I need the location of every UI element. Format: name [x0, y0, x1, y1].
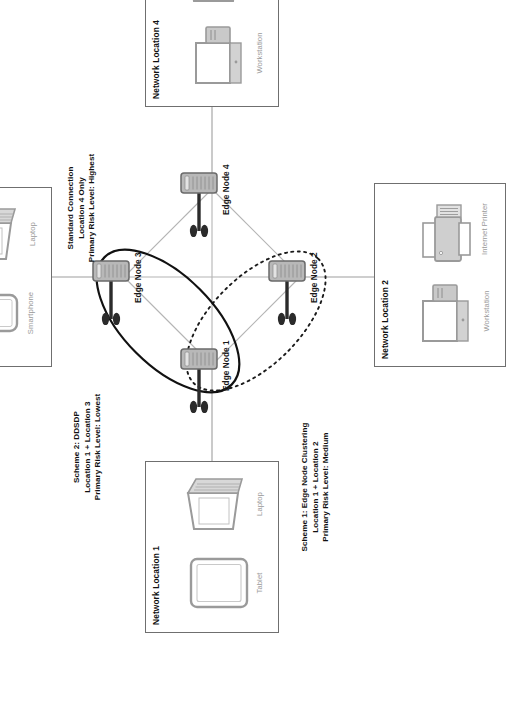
- annotation-scheme-1: Scheme 1: Edge Node Clustering Location …: [300, 377, 332, 597]
- device-label: Laptop: [28, 198, 37, 270]
- smartphone-icon: [0, 287, 21, 339]
- antenna-icon: [190, 193, 208, 237]
- device-laptop: Laptop: [186, 468, 264, 540]
- edge-node-2: Edge Node 2: [266, 251, 308, 325]
- edge-node-label: Edge Node 4: [222, 164, 231, 215]
- workstation-icon: [417, 275, 477, 347]
- device-workstation: Workstation: [190, 14, 264, 92]
- workstation-icon: [190, 17, 250, 89]
- device-label: Laptop: [255, 0, 264, 12]
- location-title: Network Location 1: [151, 546, 161, 625]
- device-workstation: Workstation: [417, 272, 491, 350]
- annotation-scheme-2: Scheme 2: DDSDP Location 1 + Location 3 …: [72, 347, 104, 547]
- edge-node-4: Edge Node 4: [178, 163, 220, 237]
- device-smartphone: Smartphone: [0, 278, 35, 348]
- device-label: Internet Printer: [480, 188, 489, 270]
- laptop-icon: [186, 471, 250, 537]
- annotation-line-3: Primary Risk Level: Highest: [87, 103, 98, 313]
- tablet-icon: [188, 555, 250, 611]
- annotation-line-1: Standard Connection: [66, 103, 77, 313]
- annotation-line-2: Location 1 + Location 3: [83, 347, 94, 547]
- edge-node-label: Edge Node 3: [134, 252, 143, 303]
- edge-node-1: Edge Node 1: [178, 339, 220, 413]
- annotation-line-3: Primary Risk Level: Lowest: [93, 347, 104, 547]
- location-box-location-4: Network Location 4 Workstation: [145, 0, 279, 107]
- location-box-location-3: Network Location 3 Smartphone Laptop: [0, 187, 52, 367]
- edge-node-label: Edge Node 2: [310, 252, 319, 303]
- antenna-icon: [278, 281, 296, 325]
- device-label: Tablet: [255, 550, 264, 616]
- printer-icon: [419, 191, 475, 267]
- annotation-line-2: Location 1 + Location 2: [311, 377, 322, 597]
- location-title: Network Location 2: [380, 280, 390, 359]
- location-box-location-2: Network Location 2 Workstation: [374, 183, 506, 367]
- annotation-standard-connection: Standard Connection Location 4 Only Prim…: [66, 103, 98, 313]
- annotation-line-3: Primary Risk Level: Medium: [321, 377, 332, 597]
- location-box-location-1: Network Location 1 Tablet Laptop: [145, 461, 279, 633]
- edge-node-server-icon: [178, 163, 220, 237]
- device-label: Workstation: [255, 14, 264, 92]
- annotation-line-1: Scheme 2: DDSDP: [72, 347, 83, 547]
- device-printer: Internet Printer: [419, 188, 489, 270]
- device-tablet: Tablet: [188, 550, 264, 616]
- antenna-icon: [190, 369, 208, 413]
- device-laptop: Laptop: [186, 0, 264, 12]
- edge-node-label: Edge Node 1: [222, 340, 231, 391]
- device-label: Laptop: [255, 468, 264, 540]
- device-label: Smartphone: [26, 278, 35, 348]
- device-laptop: Laptop: [0, 198, 37, 270]
- annotation-line-2: Location 4 Only: [77, 103, 88, 313]
- edge-node-server-icon: [266, 251, 308, 325]
- device-label: Workstation: [482, 272, 491, 350]
- laptop-icon: [0, 201, 23, 267]
- laptop-icon: [186, 0, 250, 9]
- location-title: Network Location 4: [151, 20, 161, 99]
- annotation-line-1: Scheme 1: Edge Node Clustering: [300, 377, 311, 597]
- antenna-icon: [102, 281, 120, 325]
- edge-node-server-icon: [178, 339, 220, 413]
